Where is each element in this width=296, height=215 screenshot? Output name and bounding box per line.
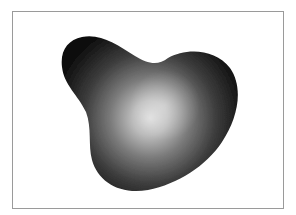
blob-highlight xyxy=(62,36,238,191)
blob-shape xyxy=(0,0,296,215)
